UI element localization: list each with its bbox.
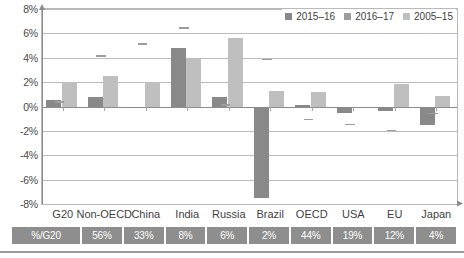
y-tick-label: -2% [4, 125, 38, 137]
table-value-cell: 33% [124, 227, 164, 244]
bar-2015-16 [420, 107, 435, 125]
y-tick-label: 4% [4, 52, 38, 64]
bar-2015-16 [378, 107, 393, 112]
bar-2005-15 [435, 96, 450, 107]
bar-chart: 2015–162016–172005–15 G20Non-OECDChinaIn… [0, 0, 464, 258]
x-tick [63, 107, 64, 111]
bar-group [42, 9, 84, 204]
x-tick [187, 107, 188, 111]
bar-group [374, 9, 416, 204]
y-tick-label: 0% [4, 101, 38, 113]
legend-item: 2005–15 [403, 11, 453, 22]
bar-2015-16 [129, 107, 144, 109]
table-value-cell: 12% [374, 227, 414, 244]
y-tick-label: 6% [4, 27, 38, 39]
x-tick [229, 107, 230, 111]
bar-group [208, 9, 250, 204]
bar-2005-15 [145, 82, 160, 106]
table-value-cell: 56% [82, 227, 122, 244]
legend-swatch-icon [403, 13, 410, 20]
bottom-divider [0, 251, 464, 253]
plot-area [42, 9, 457, 204]
x-tick [312, 107, 313, 111]
marker-2016-17 [262, 59, 272, 61]
bar-2005-15 [311, 92, 326, 107]
bar-2005-15 [62, 82, 77, 106]
x-axis-label: G20 [52, 208, 73, 220]
x-axis-label: Japan [421, 208, 451, 220]
bar-group [125, 9, 167, 204]
x-axis-label: Non-OECD [76, 208, 132, 220]
marker-2016-17 [221, 104, 231, 106]
x-axis-label: USA [342, 208, 365, 220]
marker-2016-17 [179, 27, 189, 29]
marker-2016-17 [304, 119, 314, 121]
x-axis-label: Brazil [256, 208, 284, 220]
x-axis-label: OECD [296, 208, 328, 220]
y-tick-label: -6% [4, 174, 38, 186]
legend-item: 2015–16 [285, 11, 335, 22]
bar-2005-15 [394, 84, 409, 107]
legend-swatch-icon [285, 13, 292, 20]
x-axis-label: Russia [212, 208, 246, 220]
x-tick [104, 107, 105, 111]
y-tick-label: -8% [4, 198, 38, 210]
table-value-cell: 44% [291, 227, 331, 244]
chart-legend: 2015–162016–172005–15 [282, 9, 456, 24]
marker-2016-17 [345, 124, 355, 126]
bar-2015-16 [337, 107, 352, 114]
bar-2005-15 [228, 38, 243, 107]
bar-2005-15 [103, 76, 118, 106]
x-axis-arrow-icon [457, 201, 463, 207]
bar-2015-16 [171, 48, 186, 107]
marker-2016-17 [55, 101, 65, 103]
x-tick [436, 107, 437, 111]
plot-frame [41, 8, 458, 205]
legend-swatch-icon [344, 13, 351, 20]
bar-group [250, 9, 292, 204]
y-tick-label: 8% [4, 3, 38, 15]
bar-group [291, 9, 333, 204]
marker-2016-17 [428, 113, 438, 115]
legend-label: 2016–17 [355, 11, 394, 22]
bar-group [333, 9, 375, 204]
y-tick-label: 2% [4, 76, 38, 88]
x-tick [353, 107, 354, 111]
table-value-cell: 2% [249, 227, 289, 244]
legend-item: 2016–17 [344, 11, 394, 22]
table-header-cell: %/G20 [12, 227, 80, 244]
x-axis-label: India [175, 208, 199, 220]
x-axis-label: EU [387, 208, 402, 220]
x-tick [270, 107, 271, 111]
table-value-cell: 4% [416, 227, 456, 244]
bar-2005-15 [186, 59, 201, 107]
bar-2015-16 [88, 97, 103, 106]
bar-group [167, 9, 209, 204]
table-value-cell: 6% [207, 227, 247, 244]
marker-2016-17 [138, 43, 148, 45]
legend-label: 2005–15 [414, 11, 453, 22]
legend-label: 2015–16 [296, 11, 335, 22]
bar-group [416, 9, 458, 204]
bar-group [84, 9, 126, 204]
bar-2015-16 [295, 105, 310, 107]
x-tick [395, 107, 396, 111]
table-value-cell: 8% [166, 227, 206, 244]
percent-of-g20-row: %/G2056%33%8%6%2%44%19%12%4% [12, 227, 456, 244]
marker-2016-17 [96, 55, 106, 57]
y-tick-label: -4% [4, 149, 38, 161]
table-value-cell: 19% [333, 227, 373, 244]
bar-2015-16 [254, 107, 269, 198]
x-axis-label: China [131, 208, 160, 220]
marker-2016-17 [387, 130, 397, 132]
x-tick [146, 107, 147, 111]
bar-2005-15 [269, 91, 284, 106]
